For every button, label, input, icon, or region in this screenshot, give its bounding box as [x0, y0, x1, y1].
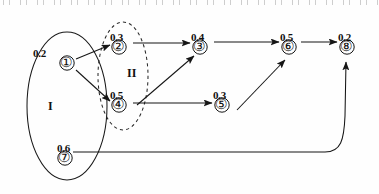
node-weight-1: 0.2: [33, 48, 46, 59]
diagram-canvas: I II ① ② ③ ④ ⑤ ⑥ ⑦ ⑧ 0.2 0.3 0.4 0.5 0.3…: [0, 0, 379, 194]
node-weight-6: 0.5: [280, 32, 293, 43]
node-glyph-1[interactable]: ①: [60, 56, 73, 70]
node-weight-3: 0.4: [191, 32, 204, 43]
edge-4-to-3: [137, 56, 194, 105]
node-weight-4: 0.5: [110, 90, 123, 101]
edge-1-to-2: [76, 45, 110, 59]
node-weight-8: 0.2: [338, 32, 351, 43]
node-weight-7: 0.6: [57, 143, 70, 154]
region-label-II: II: [127, 67, 136, 79]
edge-5-to-6: [237, 60, 285, 110]
node-weight-2: 0.3: [110, 32, 123, 43]
region-label-I: I: [48, 100, 53, 112]
node-weight-5: 0.3: [213, 90, 226, 101]
edge-1-to-4: [76, 70, 110, 101]
graph-svg: [0, 0, 379, 194]
